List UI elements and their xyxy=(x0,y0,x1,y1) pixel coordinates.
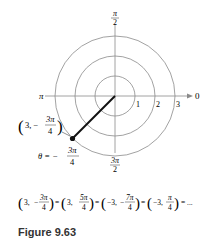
polar-point xyxy=(70,136,75,141)
svg-text:3,: 3, xyxy=(24,198,30,207)
svg-text:7π: 7π xyxy=(126,193,134,202)
svg-text:4: 4 xyxy=(168,203,172,212)
label-zero: 0 xyxy=(195,91,200,101)
figure-caption: Figure 9.63 xyxy=(18,226,76,238)
label-pi-over-2-num: π xyxy=(113,9,118,18)
svg-text:): ) xyxy=(49,195,54,212)
svg-text:π: π xyxy=(168,193,172,202)
label-3pi-over-2-num: 3π xyxy=(110,156,120,165)
point-label-prefix: 3, − xyxy=(25,120,39,130)
svg-text:): ) xyxy=(89,195,94,212)
ring-label-3: 3 xyxy=(176,100,180,109)
svg-text:4: 4 xyxy=(82,203,86,212)
ring-label-1: 1 xyxy=(136,100,140,109)
svg-text:3π: 3π xyxy=(39,193,48,202)
label-pi-over-2-den: 2 xyxy=(113,18,117,27)
svg-text:−3,: −3, xyxy=(107,198,117,207)
label-pi: π xyxy=(39,91,44,101)
paren-left: ( xyxy=(18,117,24,136)
svg-text:3,: 3, xyxy=(67,198,73,207)
point-theta-den: 4 xyxy=(48,126,53,136)
paren-right: ) xyxy=(57,117,63,136)
ray-theta xyxy=(73,96,115,138)
point-theta-num: 3π xyxy=(45,114,55,124)
svg-text:=: = xyxy=(95,198,99,207)
svg-text:): ) xyxy=(174,195,179,212)
svg-text:(: ( xyxy=(101,195,106,212)
arrowhead-icon xyxy=(187,94,193,99)
ring-label-2: 2 xyxy=(156,100,160,109)
svg-text:(: ( xyxy=(18,195,23,212)
svg-text:= ...: = ... xyxy=(181,198,193,207)
svg-text:5π: 5π xyxy=(80,193,88,202)
svg-text:(: ( xyxy=(61,195,66,212)
svg-text:−3,: −3, xyxy=(153,198,163,207)
polar-diagram: π 2 3π 2 π 0 1 2 3 ( 3, − 3π 4 ) θ = − 3… xyxy=(0,0,219,246)
svg-text:): ) xyxy=(135,195,140,212)
theta-label-lhs: θ = − xyxy=(38,151,58,161)
equivalence-equation: ( 3, − 3π 4 ) = ( 3, 5π 4 ) = ( −3, − 7π… xyxy=(18,193,193,212)
svg-text:4: 4 xyxy=(128,203,132,212)
theta-label-den: 4 xyxy=(70,157,75,167)
svg-text:4: 4 xyxy=(42,203,46,212)
svg-text:−: − xyxy=(34,198,38,207)
svg-text:−: − xyxy=(120,198,124,207)
label-3pi-over-2-den: 2 xyxy=(113,165,117,174)
svg-text:=: = xyxy=(141,198,145,207)
svg-text:(: ( xyxy=(147,195,152,212)
theta-label-num: 3π xyxy=(67,145,77,155)
svg-text:=: = xyxy=(55,198,59,207)
